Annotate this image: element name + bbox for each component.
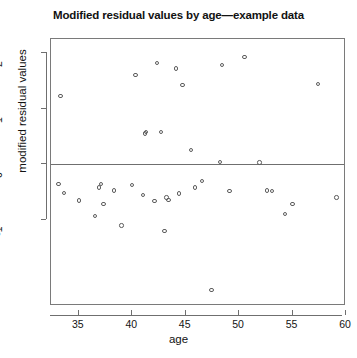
y-axis-tick [41,163,46,164]
data-point [218,160,222,164]
x-axis-tick-label: 45 [170,318,200,330]
data-point [257,160,261,164]
data-point [58,94,62,98]
data-point [133,73,137,77]
x-axis-tick [185,310,186,315]
data-point [200,179,204,183]
data-point [193,185,197,189]
chart-title: Modified residual values by age—example … [0,9,357,21]
x-axis-tick-label: 55 [277,318,307,330]
data-point [220,63,224,67]
scatter-plot-figure: Modified residual values by age—example … [0,0,357,358]
x-axis-tick-label: 35 [63,318,93,330]
x-axis-tick [292,310,293,315]
data-point [141,193,145,197]
data-point [180,83,184,87]
data-point [227,189,231,193]
data-point [334,195,338,199]
data-point [101,202,105,206]
data-point [119,223,123,227]
plot-area [50,38,345,305]
data-point [77,198,81,202]
y-axis-tick [41,108,46,109]
data-point [265,188,269,192]
data-point [270,189,274,193]
data-point [316,82,320,86]
y-axis-tick-label: 0 [0,162,4,188]
y-axis-tick [41,219,46,220]
data-point [93,214,97,218]
x-axis-tick-label: 60 [330,318,357,330]
data-point [209,288,213,292]
data-point [283,212,287,216]
y-axis-title: modified residual values [16,16,28,206]
data-point [62,191,66,195]
data-point [159,130,163,134]
y-axis-tick-label: -1 [0,218,4,244]
y-axis-line [46,52,47,219]
data-point [177,191,181,195]
data-point [99,182,103,186]
data-point [162,229,166,233]
data-point [242,55,246,59]
data-point [166,198,170,202]
data-point [130,183,134,187]
x-axis-tick-label: 50 [223,318,253,330]
data-point [152,199,156,203]
x-axis-tick [238,310,239,315]
data-point [189,148,193,152]
x-axis-tick [78,310,79,315]
data-point [144,130,148,134]
x-axis-tick-label: 40 [116,318,146,330]
data-point [290,202,294,206]
data-point [174,66,178,70]
x-axis-tick [131,310,132,315]
data-point [112,188,116,192]
data-point [56,182,60,186]
x-axis-title: age [0,333,357,345]
x-axis-line [50,315,342,316]
x-axis-tick [345,310,346,315]
y-axis-tick [41,52,46,53]
data-points-layer [51,39,344,304]
y-axis-tick-label: 2 [0,51,4,77]
data-point [155,61,159,65]
y-axis-tick-label: 1 [0,107,4,133]
